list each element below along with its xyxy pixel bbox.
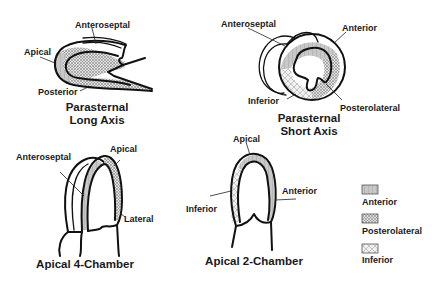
a4c-lateral-segment (104, 158, 122, 222)
a4c-septum-base (80, 232, 82, 256)
legend: Anterior Posterolateral Inferior (362, 185, 422, 265)
psax-label-posterolateral: Posterolateral (340, 103, 400, 113)
a2c-label-anterior: Anterior (282, 186, 318, 196)
psax-title-line2: Short Axis (280, 125, 337, 137)
echocardiography-views-diagram: Anteroseptal Apical Posterior Parasterna… (0, 0, 437, 283)
legend-label-inferior: Inferior (362, 255, 394, 265)
a4c-label-anteroseptal: Anteroseptal (16, 152, 71, 162)
psax-label-anteroseptal: Anteroseptal (221, 19, 276, 29)
legend-label-posterolateral: Posterolateral (362, 226, 422, 236)
a2c-title: Apical 2-Chamber (205, 255, 303, 267)
a2c-label-inferior: Inferior (186, 204, 218, 214)
plax-view: Anteroseptal Apical Posterior Parasterna… (24, 20, 152, 126)
a4c-septal-segment (82, 160, 102, 230)
plax-label-apical: Apical (24, 47, 51, 57)
a2c-view: Apical Anterior Inferior Apical 2-Chambe… (186, 134, 318, 267)
psax-label-anterior: Anterior (342, 23, 378, 33)
a2c-la-right (271, 222, 272, 250)
plax-title-line2: Long Axis (69, 114, 124, 126)
legend-swatch-anterior (362, 185, 378, 194)
psax-posterolateral-segment (312, 52, 340, 100)
psax-title-line1: Parasternal (278, 112, 341, 124)
a4c-ra (59, 232, 68, 256)
a4c-base (68, 225, 117, 232)
plax-apical-leader (40, 57, 55, 63)
a4c-label-apical: Apical (110, 144, 137, 154)
plax-label-posterior: Posterior (38, 87, 78, 97)
psax-anterior-leader (334, 32, 346, 43)
a4c-view: Anteroseptal Apical Lateral Apical 4-Cha… (16, 144, 154, 270)
a2c-inferior-leader (210, 191, 231, 196)
plax-title-line1: Parasternal (66, 101, 129, 113)
a4c-anteroseptal-leader (60, 172, 84, 196)
a4c-la (117, 225, 119, 256)
a2c-anterior-leader (275, 199, 296, 200)
psax-label-inferior: Inferior (248, 96, 280, 106)
a2c-label-apical: Apical (233, 134, 260, 144)
psax-inferior-leader (287, 94, 296, 99)
a2c-lv-inner (238, 162, 269, 222)
a2c-base (236, 214, 271, 226)
plax-label-anteroseptal: Anteroseptal (75, 20, 130, 30)
legend-swatch-posterolateral (362, 214, 378, 223)
a2c-la-left (232, 226, 236, 247)
legend-swatch-inferior (362, 244, 378, 253)
psax-view: Anteroseptal Anterior Inferior Posterola… (221, 19, 400, 137)
plax-posterior-leader (80, 87, 88, 91)
a4c-title: Apical 4-Chamber (36, 258, 134, 270)
legend-label-anterior: Anterior (362, 197, 398, 207)
a4c-label-lateral: Lateral (124, 214, 154, 224)
